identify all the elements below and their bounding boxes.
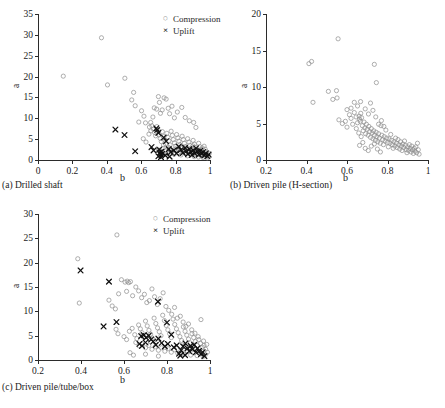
- data-point-circle: [134, 285, 138, 289]
- data-point-circle: [309, 59, 313, 63]
- data-point-circle: [133, 104, 137, 108]
- data-point-circle: [150, 287, 154, 291]
- data-point-circle: [196, 335, 200, 339]
- data-point-circle: [368, 101, 372, 105]
- data-point-circle: [358, 100, 362, 104]
- series-uplift: [78, 268, 207, 358]
- data-point-circle: [123, 76, 127, 80]
- data-point-circle: [113, 307, 117, 311]
- data-point-circle: [180, 105, 184, 109]
- data-point-circle: [366, 148, 370, 152]
- data-point-circle: [335, 96, 339, 100]
- data-point-circle: [116, 332, 120, 336]
- data-point-circle: [340, 121, 344, 125]
- data-point-circle: [152, 295, 156, 299]
- data-point-circle: [205, 342, 209, 346]
- data-point-circle: [389, 132, 393, 136]
- data-point-circle: [372, 62, 376, 66]
- data-point-circle: [124, 337, 128, 341]
- data-point-circle: [105, 83, 109, 87]
- data-point-circle: [172, 116, 176, 120]
- data-point-circle: [415, 141, 419, 145]
- data-point-circle: [117, 292, 121, 296]
- data-point-circle: [355, 104, 359, 108]
- data-point-circle: [178, 314, 182, 318]
- data-point-circle: [382, 124, 386, 128]
- data-point-circle: [199, 318, 203, 322]
- data-point-circle: [334, 89, 338, 93]
- data-point-circle: [336, 37, 340, 41]
- data-point-circle: [170, 104, 174, 108]
- data-point-circle: [142, 292, 146, 296]
- data-point-circle: [369, 144, 373, 148]
- data-point-circle: [156, 94, 160, 98]
- data-point-circle: [345, 108, 349, 112]
- data-point-circle: [175, 316, 179, 320]
- panel-driven-pile-tube-box: 0510152025300.20.40.60.81ba(c) Driven pi…: [0, 200, 238, 408]
- data-point-circle: [352, 100, 356, 104]
- data-point-circle: [99, 36, 103, 40]
- data-point-circle: [378, 150, 382, 154]
- data-point-circle: [161, 313, 165, 317]
- data-point-circle: [326, 89, 330, 93]
- data-point-circle: [359, 135, 363, 139]
- data-point-circle: [337, 118, 341, 122]
- data-point-circle: [331, 97, 335, 101]
- data-point-circle: [156, 354, 160, 358]
- data-point-circle: [137, 120, 141, 124]
- data-point-circle: [130, 98, 134, 102]
- data-point-circle: [151, 115, 155, 119]
- scatter-points-layer: [228, 0, 445, 200]
- data-point-circle: [157, 100, 161, 104]
- data-point-circle: [194, 125, 198, 129]
- data-point-circle: [351, 122, 355, 126]
- data-point-circle: [131, 353, 135, 357]
- scatter-points-layer: [0, 200, 238, 408]
- data-point-circle: [172, 305, 176, 309]
- data-point-circle: [374, 115, 378, 119]
- data-point-circle: [171, 317, 175, 321]
- data-point-circle: [143, 319, 147, 323]
- data-point-circle: [311, 100, 315, 104]
- data-point-circle: [114, 327, 118, 331]
- series-compression: [61, 36, 211, 160]
- data-point-circle: [115, 233, 119, 237]
- data-point-circle: [173, 322, 177, 326]
- panel-drilled-shaft: 0510152025303500.20.40.60.81ba(a) Drille…: [0, 0, 228, 200]
- data-point-circle: [169, 129, 173, 133]
- data-point-circle: [154, 321, 158, 325]
- data-point-circle: [363, 107, 367, 111]
- data-point-circle: [354, 127, 358, 131]
- data-point-circle: [137, 289, 141, 293]
- data-point-circle: [371, 108, 375, 112]
- data-point-circle: [131, 294, 135, 298]
- data-point-circle: [161, 291, 165, 295]
- data-point-circle: [366, 112, 370, 116]
- data-point-circle: [130, 326, 134, 330]
- data-point-circle: [160, 108, 164, 112]
- data-point-circle: [170, 312, 174, 316]
- data-point-circle: [144, 140, 148, 144]
- data-point-circle: [142, 114, 146, 118]
- data-point-circle: [187, 119, 191, 123]
- data-point-circle: [374, 81, 378, 85]
- series-compression: [307, 37, 421, 157]
- data-point-circle: [307, 62, 311, 66]
- data-point-circle: [349, 116, 353, 120]
- panel-driven-pile-h-section: 051015200.20.40.60.81ba(b) Driven pile (…: [228, 0, 445, 200]
- data-point-circle: [145, 324, 149, 328]
- data-point-circle: [139, 109, 143, 113]
- data-point-circle: [164, 304, 168, 308]
- data-point-circle: [61, 74, 65, 78]
- data-point-circle: [343, 119, 347, 123]
- data-point-circle: [349, 106, 353, 110]
- data-point-circle: [183, 115, 187, 119]
- data-point-circle: [107, 298, 111, 302]
- data-point-circle: [143, 121, 147, 125]
- data-point-circle: [167, 112, 171, 116]
- data-point-circle: [132, 90, 136, 94]
- data-point-circle: [361, 140, 365, 144]
- data-point-circle: [152, 316, 156, 320]
- data-point-circle: [192, 120, 196, 124]
- data-point-circle: [181, 325, 185, 329]
